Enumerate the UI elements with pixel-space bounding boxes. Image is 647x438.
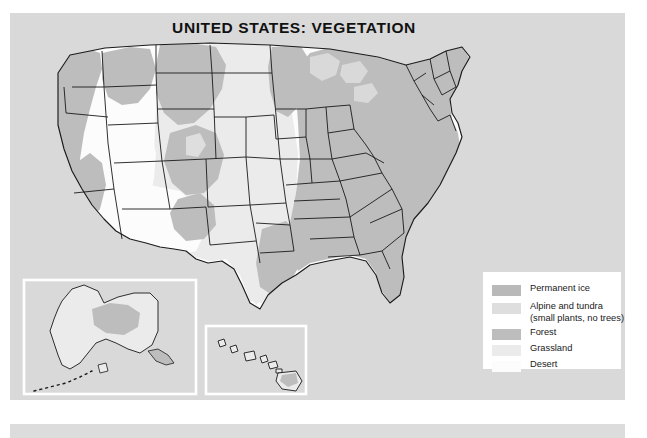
legend-label-grassland: Grassland: [530, 343, 572, 355]
alaska-panhandle: [148, 349, 174, 365]
legend-label-alpine-tundra-main: Alpine and tundra: [530, 301, 603, 311]
hawaii-inset: [206, 326, 306, 394]
legend-swatch-desert: [492, 361, 521, 372]
legend-swatch-grassland: [492, 345, 521, 356]
legend-swatch-alpine-tundra: [492, 303, 521, 314]
legend-item-grassland: Grassland: [492, 343, 572, 356]
legend-label-permanent-ice: Permanent ice: [530, 283, 590, 295]
legend-label-alpine-tundra: Alpine and tundra (small plants, no tree…: [530, 301, 624, 324]
legend-label-forest: Forest: [530, 327, 556, 339]
bottom-gray-band: [10, 424, 625, 438]
legend-swatch-forest: [492, 329, 521, 340]
region-forest-eastern: [290, 47, 470, 303]
screenshot-page: UNITED STATES: VEGETATION: [0, 0, 647, 438]
legend-item-desert: Desert: [492, 359, 557, 372]
alaska-inset: [24, 280, 196, 394]
alaska-kodiak: [98, 363, 108, 373]
legend-swatch-permanent-ice: [492, 285, 521, 296]
legend-label-alpine-tundra-sub: (small plants, no trees): [530, 313, 624, 325]
map-figure-panel: UNITED STATES: VEGETATION: [10, 13, 625, 400]
legend-item-forest: Forest: [492, 327, 556, 340]
region-forest-east-texas: [256, 221, 300, 295]
map-legend: Permanent ice Alpine and tundra (small p…: [483, 272, 621, 369]
alaska-aleutians: [34, 371, 92, 391]
legend-label-desert: Desert: [530, 359, 557, 371]
legend-item-alpine-tundra: Alpine and tundra (small plants, no tree…: [492, 301, 624, 324]
legend-item-permanent-ice: Permanent ice: [492, 283, 590, 296]
